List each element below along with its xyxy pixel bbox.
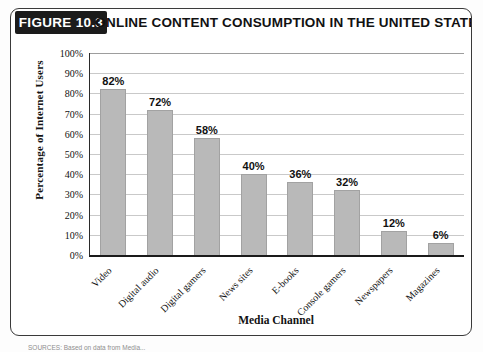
y-axis-tick: 100%: [41, 48, 83, 59]
y-axis-tick: 90%: [41, 68, 83, 79]
x-axis-tick-label: Video: [90, 263, 117, 290]
bar[interactable]: [334, 190, 360, 255]
bar-value-label: 6%: [433, 229, 449, 241]
bar[interactable]: [381, 231, 407, 255]
chart-canvas: Percentage of Internet Users 0%10%20%30%…: [11, 36, 472, 336]
bar-slot: 36%: [277, 53, 324, 255]
x-axis-tick: Digital gamers: [183, 257, 230, 317]
bar-slot: 32%: [324, 53, 371, 255]
bar-slot: 6%: [417, 53, 464, 255]
bar[interactable]: [287, 182, 313, 255]
plot-area: 82%72%58%40%36%32%12%6%: [89, 53, 464, 257]
bar-value-label: 58%: [196, 124, 218, 136]
source-note: SOURCES: Based on data from Media...: [28, 343, 458, 352]
figure-frame: FIGURE 10.3 ONLINE CONTENT CONSUMPTION I…: [10, 8, 472, 336]
figure-title: ONLINE CONTENT CONSUMPTION IN THE UNITED…: [115, 11, 467, 34]
bar-slot: 40%: [230, 53, 277, 255]
y-axis-tick: 80%: [41, 88, 83, 99]
bar-value-label: 32%: [336, 176, 358, 188]
x-axis-tick: Magazines: [416, 257, 463, 317]
bar-slot: 12%: [371, 53, 418, 255]
bar[interactable]: [147, 110, 173, 255]
bar-value-label: 40%: [243, 160, 265, 172]
y-axis-tick: 30%: [41, 189, 83, 200]
bar[interactable]: [241, 174, 267, 255]
bar[interactable]: [100, 89, 126, 255]
bar-slot: 58%: [184, 53, 231, 255]
y-axis-tick: 0%: [41, 250, 83, 261]
y-axis-tick: 60%: [41, 128, 83, 139]
figure-header: FIGURE 10.3 ONLINE CONTENT CONSUMPTION I…: [11, 9, 471, 36]
x-axis-tick: Newspapers: [370, 257, 417, 317]
x-axis-title: Media Channel: [89, 314, 463, 326]
bar[interactable]: [194, 138, 220, 255]
y-axis-tick: 50%: [41, 149, 83, 160]
y-axis-tick: 10%: [41, 229, 83, 240]
figure-number-badge: FIGURE 10.3: [15, 11, 107, 34]
bar-value-label: 36%: [289, 168, 311, 180]
y-axis-tick: 40%: [41, 169, 83, 180]
bar-value-label: 72%: [149, 96, 171, 108]
bar-value-label: 12%: [383, 217, 405, 229]
y-axis-tick: 70%: [41, 108, 83, 119]
bar-slot: 82%: [90, 53, 137, 255]
x-axis-tick: Console gamers: [323, 257, 370, 317]
bar[interactable]: [428, 243, 454, 255]
y-axis-tick-labels: 0%10%20%30%40%50%60%70%80%90%100%: [41, 53, 87, 255]
y-axis-tick: 20%: [41, 209, 83, 220]
bars-layer: 82%72%58%40%36%32%12%6%: [90, 53, 464, 255]
bar-slot: 72%: [137, 53, 184, 255]
bar-value-label: 82%: [102, 75, 124, 87]
x-axis-tick-labels: VideoDigital audioDigital gamersNews sit…: [89, 257, 463, 317]
